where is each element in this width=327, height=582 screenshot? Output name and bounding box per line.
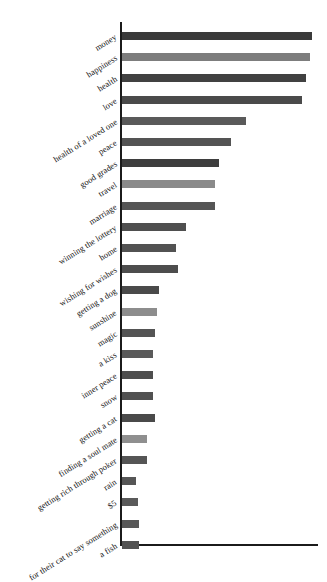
bar [122, 32, 312, 40]
bar-row: travel [0, 176, 327, 198]
bar [122, 435, 147, 443]
bar-row: love [0, 92, 327, 114]
bar [122, 414, 155, 422]
bar [122, 53, 310, 61]
category-label: home [97, 244, 119, 263]
category-label: love [101, 95, 119, 111]
bar-row: getting rich through poker [0, 452, 327, 474]
bar-row: money [0, 28, 327, 50]
bar-row: marriage [0, 198, 327, 220]
bar-row: inner peace [0, 367, 327, 389]
bar-row: winning the lottery [0, 219, 327, 241]
bar-row: happiness [0, 49, 327, 71]
bar [122, 74, 306, 82]
bar [122, 286, 159, 294]
category-label: a fish [97, 541, 119, 560]
bar [122, 265, 178, 273]
bar-row: health of a loved one [0, 113, 327, 135]
bar [122, 96, 302, 104]
bar-row: magic [0, 325, 327, 347]
category-label: travel [96, 180, 118, 199]
bar [122, 180, 215, 188]
bar-row: rain [0, 473, 327, 495]
bar [122, 308, 157, 316]
bar [122, 541, 139, 549]
bar-row: finding a soul mate [0, 431, 327, 453]
bar [122, 520, 139, 528]
bar-row: peace [0, 134, 327, 156]
bar [122, 371, 153, 379]
bar-row: sunshine [0, 304, 327, 326]
bar [122, 392, 153, 400]
bar [122, 117, 246, 125]
category-label: snow [98, 392, 119, 410]
bar [122, 223, 186, 231]
bar [122, 202, 215, 210]
bar [122, 244, 176, 252]
bar-row: $5 [0, 494, 327, 516]
bar [122, 138, 231, 146]
bar-row: getting a dog [0, 282, 327, 304]
category-label: $5 [106, 498, 119, 511]
bar [122, 498, 138, 506]
bar-row: getting a cat [0, 410, 327, 432]
category-label: peace [97, 138, 119, 157]
bar-row: health [0, 70, 327, 92]
category-label: rain [102, 477, 119, 493]
bar [122, 329, 155, 337]
bar [122, 159, 219, 167]
bar-row: a kiss [0, 346, 327, 368]
bar-row: for their cat to say something [0, 516, 327, 538]
category-label: a kiss [97, 350, 119, 369]
bar [122, 350, 153, 358]
bar-row: good grades [0, 155, 327, 177]
bar [122, 477, 136, 485]
bar-row: snow [0, 388, 327, 410]
bar-row: home [0, 240, 327, 262]
bar [122, 456, 147, 464]
bar-row: a fish [0, 537, 327, 559]
bar-row: wishing for wishes [0, 261, 327, 283]
